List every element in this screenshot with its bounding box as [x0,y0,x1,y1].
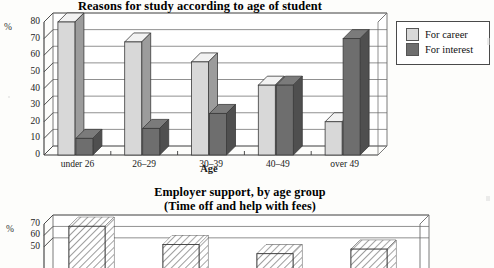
legend-swatch-for-career [406,28,419,41]
chart1-title: Reasons for study according to age of st… [38,0,362,14]
scanned-page: Reasons for study according to age of st… [0,0,494,268]
chart-employer-support: Employer support, by age group (Time off… [0,184,494,268]
legend-swatch-for-interest [406,43,419,56]
legend-label-for-interest: For interest [425,44,473,55]
chart2-y-unit: % [6,224,14,234]
legend-item-for-career: For career [406,27,489,42]
chart2-title-line2: (Time off and help with fees) [96,199,384,214]
scan-speckle [8,96,10,98]
chart1-legend: For career For interest [396,21,490,65]
chart1-y-unit: % [4,22,12,32]
chart2-title-line1: Employer support, by age group [96,185,384,200]
scan-speckle [486,196,490,201]
legend-label-for-career: For career [425,29,468,40]
chart-reasons-for-study: Reasons for study according to age of st… [0,0,494,182]
legend-item-for-interest: For interest [406,42,489,57]
scan-speckle [487,38,490,45]
